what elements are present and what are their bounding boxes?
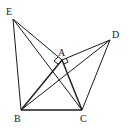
- segment-AB: [21, 60, 62, 110]
- segment-EC: [13, 19, 82, 110]
- segment-EB: [13, 19, 21, 110]
- geometry-diagram: E D A B C: [0, 0, 129, 128]
- label-D: D: [112, 29, 119, 40]
- right-angle-mark-EAB: [54, 57, 58, 64]
- label-A: A: [58, 47, 66, 58]
- label-B: B: [14, 113, 21, 124]
- segment-BD: [21, 40, 110, 110]
- label-C: C: [80, 113, 87, 124]
- label-E: E: [6, 6, 12, 17]
- segment-EA: [13, 19, 62, 60]
- segment-AC: [62, 60, 82, 110]
